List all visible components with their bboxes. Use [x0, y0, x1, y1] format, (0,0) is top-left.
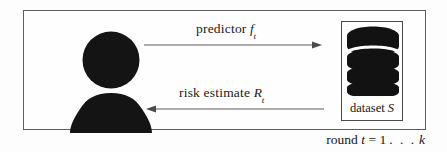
forward-arrow-label-prefix: predictor [196, 21, 250, 36]
dataset-label-prefix: dataset [350, 101, 388, 115]
backward-arrow-label: risk estimate Rt [179, 85, 265, 103]
database-cylinder-icon [346, 26, 400, 96]
dataset-label: dataset S [342, 101, 402, 116]
round-caption-equals: = [365, 132, 379, 147]
dataset-box: dataset S [341, 21, 403, 121]
round-caption: round t = 1. . .k [326, 132, 425, 148]
round-caption-ellipsis: . . . [389, 132, 416, 147]
round-caption-end: k [419, 132, 425, 147]
forward-arrow-label-subscript: t [254, 31, 257, 41]
dataset-label-symbol: S [388, 101, 394, 115]
backward-arrow-risk-estimate [146, 103, 326, 115]
forward-arrow-predictor [144, 39, 324, 51]
diagram-canvas: dataset S predictor ft risk estimate Rt … [0, 0, 447, 152]
backward-arrow-label-symbol: R [254, 85, 262, 100]
round-caption-start: 1 [379, 132, 386, 147]
backward-arrow-label-prefix: risk estimate [179, 85, 254, 100]
round-caption-prefix: round [326, 132, 361, 147]
forward-arrow-label: predictor ft [196, 21, 257, 39]
